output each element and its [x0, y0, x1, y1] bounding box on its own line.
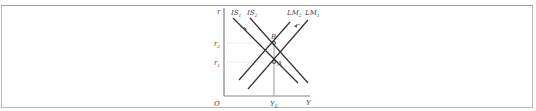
origin-label: O: [214, 100, 220, 108]
lm2-label: LM2: [286, 9, 302, 18]
point-b-label: B: [270, 33, 276, 41]
r2-label: r2: [214, 40, 220, 49]
r1-label: r1: [214, 59, 220, 68]
point-a-label: A: [276, 60, 282, 68]
x-axis-label: Y: [306, 99, 312, 107]
ye-label: YE: [270, 100, 279, 109]
lm1-curve: [248, 20, 308, 89]
is2-label: IS2: [246, 9, 258, 18]
is-lm-diagram: r r2 r1 O YE Y IS1 IS2 LM2 LM1 B A: [0, 0, 536, 111]
is2-curve: [250, 18, 308, 83]
lm2-curve: [239, 22, 290, 80]
is-shift-arrowhead-icon: [244, 27, 247, 31]
lm-shift-arrowhead-icon: [294, 24, 297, 28]
is1-label: IS1: [230, 9, 241, 18]
lm1-label: LM1: [304, 9, 320, 18]
y-axis-label: r: [217, 8, 221, 16]
